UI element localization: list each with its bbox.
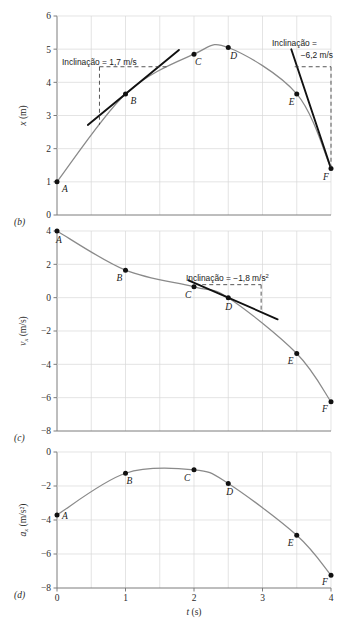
point-label-b-C: C xyxy=(195,57,202,67)
point-label-c-D: D xyxy=(224,302,232,312)
annotation-slope-at-F-line1: Inclinação = xyxy=(272,38,317,48)
y-tick-label: 1 xyxy=(46,177,51,187)
point-label-d-B: B xyxy=(127,476,133,486)
data-point-d-C xyxy=(192,467,197,472)
point-label-d-A: A xyxy=(61,511,68,521)
x-tick-label: 2 xyxy=(192,593,197,603)
annotation-slope-at-D: Inclinação = −1,8 m/s2 xyxy=(186,273,269,283)
point-label-b-E: E xyxy=(288,97,295,107)
data-point-d-B xyxy=(123,471,128,476)
y-axis-title-b: x (m) xyxy=(18,105,29,126)
data-point-b-D xyxy=(226,45,231,50)
data-point-b-A xyxy=(55,179,60,184)
panel-c-annotations: Inclinação = −1,8 m/s2 xyxy=(186,273,278,319)
point-label-c-C: C xyxy=(185,290,192,300)
panel-label-b: (b) xyxy=(14,217,25,228)
y-tick-label: 6 xyxy=(46,11,51,21)
point-label-b-B: B xyxy=(131,96,137,106)
y-tick-label: −6 xyxy=(41,549,51,559)
panel-label-c: (c) xyxy=(14,433,25,444)
x-tick-label: 4 xyxy=(329,593,334,603)
y-tick-label: −4 xyxy=(41,515,51,525)
point-label-c-F: F xyxy=(321,404,328,414)
point-label-d-F: F xyxy=(321,577,328,587)
data-point-d-A xyxy=(55,512,60,517)
data-point-b-C xyxy=(192,52,197,57)
y-tick-label: 2 xyxy=(46,260,51,270)
point-label-c-A: A xyxy=(55,235,62,245)
data-point-d-F xyxy=(329,573,334,578)
x-axis-title: t (s) xyxy=(186,607,201,618)
data-point-c-C xyxy=(192,284,197,289)
point-label-c-E: E xyxy=(287,356,294,366)
y-tick-label: 2 xyxy=(46,144,51,154)
data-point-c-F xyxy=(329,399,334,404)
y-tick-label: 4 xyxy=(46,78,51,88)
panel-c: 420−2−4−6−8(c)vx (m/s)ABCDEF xyxy=(14,226,334,444)
physics-figure-panels: 6543210(b)x (m)ABCDEF420−2−4−6−8(c)vx (m… xyxy=(0,0,342,620)
y-tick-label: 0 xyxy=(46,447,51,457)
point-label-d-C: C xyxy=(184,473,191,483)
x-axis-group: 01234t (s) xyxy=(55,588,334,618)
point-label-d-D: D xyxy=(225,487,233,497)
y-tick-label: 0 xyxy=(46,210,51,220)
data-point-c-A xyxy=(55,229,60,234)
y-tick-label: 3 xyxy=(46,111,51,121)
data-point-d-D xyxy=(226,481,231,486)
data-point-b-E xyxy=(294,91,299,96)
y-tick-label: −2 xyxy=(41,481,51,491)
point-label-b-F: F xyxy=(322,172,329,182)
data-point-c-B xyxy=(123,268,128,273)
y-tick-label: −2 xyxy=(41,326,51,336)
panel-label-d: (d) xyxy=(14,590,25,601)
y-tick-label: 0 xyxy=(46,293,51,303)
x-tick-label: 3 xyxy=(260,593,265,603)
panel-d: 0−2−4−6−8(d)ax (m/s²)ABCDEF xyxy=(14,447,334,601)
point-label-d-E: E xyxy=(287,538,294,548)
y-axis-title-d: ax (m/s²) xyxy=(18,504,29,537)
y-tick-label: 4 xyxy=(46,226,51,236)
annotation-slope-at-F-line2: −6,2 m/s xyxy=(301,50,333,60)
point-label-b-A: A xyxy=(61,184,68,194)
y-tick-label: −8 xyxy=(41,583,51,593)
data-point-d-E xyxy=(294,533,299,538)
y-axis-title-c: vx (m/s) xyxy=(18,316,29,346)
y-tick-label: −8 xyxy=(41,426,51,436)
figure-svg: 6543210(b)x (m)ABCDEF420−2−4−6−8(c)vx (m… xyxy=(0,0,342,620)
y-tick-label: −4 xyxy=(41,360,51,370)
data-point-c-E xyxy=(294,351,299,356)
point-label-b-D: D xyxy=(229,51,237,61)
annotation-slope-at-B: Inclinação = 1,7 m/s xyxy=(62,57,137,67)
y-tick-label: −6 xyxy=(41,393,51,403)
y-tick-label: 5 xyxy=(46,45,51,55)
x-tick-label: 0 xyxy=(55,593,60,603)
x-tick-label: 1 xyxy=(123,593,128,603)
tangent-line-at-D xyxy=(189,280,278,319)
point-label-c-B: B xyxy=(117,273,123,283)
